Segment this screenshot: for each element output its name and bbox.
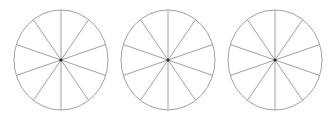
center-dot bbox=[274, 59, 277, 62]
center-dot bbox=[60, 59, 63, 62]
sector-divider-line bbox=[140, 20, 168, 60]
sector-divider-line bbox=[123, 45, 168, 60]
sector-divider-line bbox=[275, 60, 303, 100]
sector-divider-line bbox=[33, 20, 61, 60]
sector-divider-line bbox=[168, 60, 196, 100]
center-dot bbox=[167, 59, 170, 62]
sector-divider-line bbox=[275, 60, 320, 75]
sector-divider-line bbox=[168, 60, 213, 75]
diagram-canvas bbox=[0, 0, 335, 131]
sector-divider-line bbox=[275, 45, 320, 60]
sector-divider-line bbox=[16, 60, 61, 75]
sector-divider-line bbox=[61, 20, 89, 60]
divided-circle-3 bbox=[228, 10, 322, 110]
sector-divider-line bbox=[168, 45, 213, 60]
divided-circle-2 bbox=[121, 10, 215, 110]
circles-diagram bbox=[0, 0, 335, 131]
divided-circle-1 bbox=[14, 10, 108, 110]
sector-divider-line bbox=[33, 60, 61, 100]
sector-divider-line bbox=[140, 60, 168, 100]
sector-divider-line bbox=[61, 60, 106, 75]
sector-divider-line bbox=[247, 20, 275, 60]
sector-divider-line bbox=[16, 45, 61, 60]
sector-divider-line bbox=[230, 60, 275, 75]
sector-divider-line bbox=[61, 45, 106, 60]
sector-divider-line bbox=[230, 45, 275, 60]
sector-divider-line bbox=[123, 60, 168, 75]
sector-divider-line bbox=[247, 60, 275, 100]
sector-divider-line bbox=[168, 20, 196, 60]
sector-divider-line bbox=[275, 20, 303, 60]
sector-divider-line bbox=[61, 60, 89, 100]
